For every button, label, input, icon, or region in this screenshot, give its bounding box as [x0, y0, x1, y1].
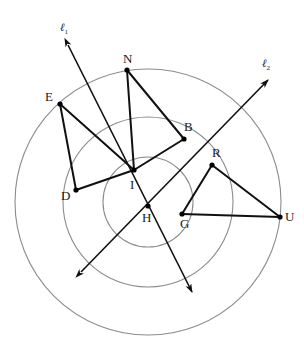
point-label-b: B: [184, 120, 193, 133]
ray-l2: [81, 80, 268, 272]
point-label-u: U: [285, 210, 294, 223]
point-r[interactable]: [209, 162, 214, 167]
point-label-n: N: [123, 52, 132, 65]
concentric-circles: [15, 69, 281, 335]
geometry-figure: ENBRDIHGUℓ1ℓ2: [0, 0, 304, 357]
ray-label-l1: ℓ1: [60, 22, 68, 36]
point-label-i: I: [130, 178, 134, 191]
point-h[interactable]: [145, 203, 150, 208]
segment-R-U: [212, 165, 280, 217]
point-e[interactable]: [57, 101, 62, 106]
segment-N-I: [127, 70, 134, 170]
outer-circle: [15, 69, 281, 335]
segment-B-I: [134, 139, 184, 170]
segment-G-U: [182, 214, 280, 217]
ray-l1: [68, 45, 192, 292]
point-n[interactable]: [124, 67, 129, 72]
point-label-r: R: [212, 146, 221, 159]
segments-group: [60, 70, 280, 217]
ray-label-subscript: 1: [65, 28, 69, 36]
ray-label-subscript: 2: [267, 64, 271, 72]
diagram-canvas: [0, 0, 304, 357]
point-u[interactable]: [277, 214, 282, 219]
point-d[interactable]: [73, 187, 78, 192]
point-i[interactable]: [131, 167, 136, 172]
point-label-d: D: [61, 189, 70, 202]
point-label-g: G: [180, 217, 189, 230]
segment-R-G: [182, 165, 212, 214]
point-label-h: H: [142, 211, 151, 224]
point-label-e: E: [45, 90, 53, 103]
point-b[interactable]: [181, 136, 186, 141]
segment-N-B: [127, 70, 184, 139]
rays-group: [68, 45, 268, 292]
ray-label-l2: ℓ2: [262, 58, 270, 72]
